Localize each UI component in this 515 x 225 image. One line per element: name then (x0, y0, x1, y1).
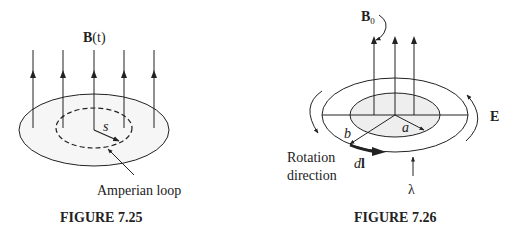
line-element-label: dl (354, 156, 365, 171)
amperian-loop-label: Amperian loop (97, 183, 181, 198)
efield-label: E (490, 109, 499, 124)
lambda-label: λ (408, 182, 415, 197)
rotation-arc-left (310, 91, 322, 133)
field-label-b0: B0 (361, 9, 375, 26)
caption-7-26: FIGURE 7.26 (354, 210, 436, 225)
radius-label-b: b (344, 126, 351, 141)
figure-7-26: B0 a b E dl λ Rotation direction FIGURE … (287, 9, 499, 225)
diagram-canvas: B(t) s Amperian loop FIGURE 7.25 (0, 0, 515, 225)
figure-7-25: B(t) s Amperian loop FIGURE 7.25 (19, 30, 181, 225)
caption-7-25: FIGURE 7.25 (60, 210, 142, 225)
radius-label-s: s (103, 119, 109, 134)
field-label-bt: B(t) (83, 30, 106, 46)
rotation-label-line1: Rotation (287, 150, 335, 165)
field-arrowheads (371, 36, 417, 44)
rotation-label-line2: direction (287, 168, 337, 183)
dl-arrowhead (372, 147, 386, 156)
radius-label-a: a (402, 120, 409, 135)
b0-pointer-arrow (376, 15, 386, 40)
